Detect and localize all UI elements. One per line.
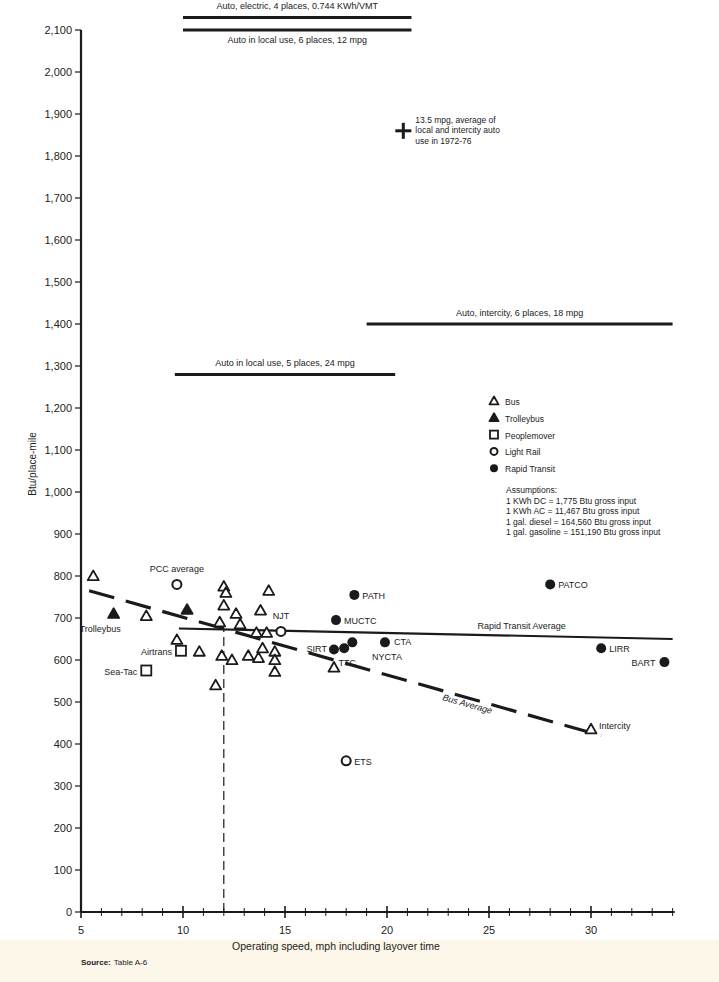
- scatter-chart: 01002003004005006007008009001,0001,1001,…: [0, 0, 719, 982]
- auto-reference-label: Auto, intercity, 6 places, 18 mpg: [456, 308, 583, 318]
- open-square-icon: [176, 646, 186, 656]
- average-mpg-annotation: local and intercity auto: [415, 125, 500, 135]
- point-label: NYCTA: [372, 652, 402, 662]
- open-triangle-icon: [586, 724, 597, 734]
- y-tick-label: 1,900: [44, 108, 72, 120]
- y-tick-label: 1,300: [44, 360, 72, 372]
- assumption-line: 1 gal. gasoline = 151,190 Btu gross inpu…: [506, 527, 661, 537]
- x-axis-label: Operating speed, mph including layover t…: [232, 940, 440, 952]
- filled-circle-icon: [380, 637, 390, 647]
- point-label: PATH: [362, 591, 385, 601]
- y-tick-label: 1,800: [44, 150, 72, 162]
- auto-reference-label: Auto in local use, 5 places, 24 mpg: [215, 358, 355, 368]
- open-square-icon: [490, 431, 498, 439]
- series-peoplemover: AirtransSea-Tac: [104, 646, 186, 677]
- open-triangle-icon: [171, 634, 182, 644]
- point-label: CTA: [394, 637, 411, 647]
- y-tick-label: 0: [66, 906, 72, 918]
- open-triangle-icon: [88, 571, 99, 581]
- filled-triangle-icon: [490, 413, 499, 421]
- source-label: Source:: [81, 958, 111, 967]
- open-triangle-icon: [255, 605, 266, 615]
- open-triangle-icon: [257, 643, 268, 653]
- y-tick-label: 1,700: [44, 192, 72, 204]
- y-tick-label: 100: [54, 864, 72, 876]
- y-tick-label: 600: [54, 654, 72, 666]
- open-square-icon: [141, 666, 151, 676]
- open-triangle-icon: [263, 585, 274, 595]
- point-label: MUCTC: [344, 616, 377, 626]
- filled-circle-icon: [329, 645, 339, 655]
- filled-circle-icon: [596, 643, 606, 653]
- open-triangle-icon: [226, 655, 237, 665]
- open-triangle-icon: [194, 646, 205, 656]
- y-tick-label: 1,200: [44, 402, 72, 414]
- y-tick-label: 1,500: [44, 276, 72, 288]
- open-triangle-icon: [218, 600, 229, 610]
- point-label: Intercity: [599, 721, 631, 731]
- open-triangle-icon: [210, 680, 221, 690]
- annotations: 13.5 mpg, average oflocal and intercity …: [372, 115, 500, 662]
- open-triangle-icon: [251, 627, 262, 637]
- rapid-transit-average-label: Rapid Transit Average: [477, 621, 565, 631]
- assumption-line: 1 gal. diesel = 164,560 Btu gross input: [506, 517, 651, 527]
- point-label: Sea-Tac: [104, 667, 138, 677]
- open-triangle-icon: [253, 652, 264, 662]
- point-label: SIRT: [307, 644, 328, 654]
- open-triangle-icon: [141, 610, 152, 620]
- source-text: Table A-6: [114, 958, 148, 967]
- open-triangle-icon: [214, 617, 225, 627]
- reference-lines: Auto, electric, 4 places, 0.744 KWh/VMTA…: [89, 1, 672, 912]
- legend-item-label: Peoplemover: [505, 431, 555, 441]
- y-tick-label: 2,100: [44, 24, 72, 36]
- point-label: BART: [632, 658, 656, 668]
- y-tick-label: 2,000: [44, 66, 72, 78]
- open-triangle-icon: [235, 619, 246, 629]
- y-tick-label: 500: [54, 696, 72, 708]
- y-tick-label: 1,100: [44, 444, 72, 456]
- assumptions-title: Assumptions:: [506, 485, 557, 495]
- x-tick-label: 25: [483, 924, 495, 936]
- open-triangle-icon: [490, 397, 499, 405]
- point-label: ETS: [354, 757, 372, 767]
- open-triangle-icon: [231, 608, 242, 618]
- bus-average-label: Bus Average: [441, 692, 493, 716]
- point-label: Airtrans: [141, 647, 173, 657]
- open-triangle-icon: [243, 650, 254, 660]
- open-triangle-icon: [261, 627, 272, 637]
- y-tick-label: 300: [54, 780, 72, 792]
- x-tick-label: 5: [78, 924, 84, 936]
- legend-item-label: Bus: [505, 397, 520, 407]
- auto-reference-label: Auto in local use, 6 places, 12 mpg: [227, 35, 367, 45]
- point-label: PATCO: [558, 580, 588, 590]
- legend-item-label: Rapid Transit: [505, 464, 556, 474]
- filled-triangle-icon: [182, 604, 193, 614]
- data-points: IntercityTrolleybusAirtransSea-TacPCC av…: [80, 564, 670, 766]
- y-tick-label: 200: [54, 822, 72, 834]
- point-label: LIRR: [609, 644, 630, 654]
- legend: BusTrolleybusPeoplemoverLight RailRapid …: [490, 397, 661, 538]
- y-tick-label: 1,600: [44, 234, 72, 246]
- assumption-line: 1 KWh AC = 11,467 Btu gross input: [506, 506, 640, 516]
- y-tick-label: 700: [54, 612, 72, 624]
- point-label: NJT: [273, 611, 290, 621]
- y-tick-label: 800: [54, 570, 72, 582]
- filled-circle-icon: [490, 464, 498, 472]
- y-tick-label: 900: [54, 528, 72, 540]
- point-label: Trolleybus: [80, 624, 122, 634]
- series-trolleybus: Trolleybus: [80, 604, 193, 634]
- assumption-line: 1 KWh DC = 1,775 Btu gross input: [506, 496, 637, 506]
- open-circle-icon: [172, 580, 181, 589]
- filled-circle-icon: [349, 590, 359, 600]
- average-mpg-annotation: 13.5 mpg, average of: [415, 115, 496, 125]
- open-circle-icon: [491, 448, 498, 455]
- open-triangle-icon: [216, 650, 227, 660]
- average-mpg-annotation: use in 1972-76: [415, 136, 472, 146]
- axes: 01002003004005006007008009001,0001,1001,…: [44, 24, 674, 936]
- x-tick-label: 10: [177, 924, 189, 936]
- y-tick-label: 400: [54, 738, 72, 750]
- filled-circle-icon: [545, 579, 555, 589]
- x-tick-label: 20: [381, 924, 393, 936]
- open-triangle-icon: [269, 666, 280, 676]
- filled-circle-icon: [339, 643, 349, 653]
